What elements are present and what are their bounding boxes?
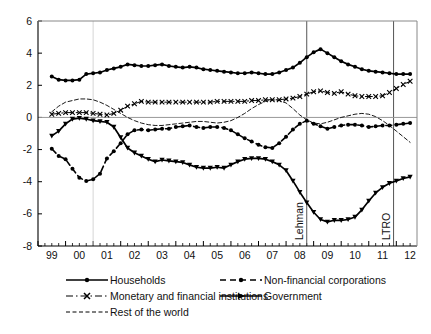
data-point — [332, 55, 336, 59]
data-point — [243, 136, 247, 140]
data-point — [408, 121, 412, 125]
y-tick-label: -2 — [23, 143, 32, 155]
data-point — [270, 146, 274, 150]
data-point — [50, 147, 54, 151]
y-tick-label: 0 — [26, 111, 32, 123]
data-point — [50, 74, 54, 78]
x-tick-label: 02 — [129, 249, 141, 261]
data-point — [408, 72, 412, 76]
data-point — [167, 64, 171, 68]
data-point — [105, 68, 109, 72]
legend-row-2: Monetary and financial institutions Gove… — [0, 288, 431, 304]
data-point — [284, 135, 288, 139]
data-point — [160, 127, 164, 131]
data-point — [167, 127, 171, 131]
legend-symbol-government — [218, 289, 264, 303]
data-point — [353, 123, 357, 127]
data-point — [139, 127, 143, 131]
x-tick-label: 12 — [404, 249, 416, 261]
x-tick-label: 04 — [184, 249, 196, 261]
legend-symbol-non-financial-corporations — [218, 273, 264, 287]
data-point — [263, 72, 267, 76]
annotation-label: LTRO — [380, 213, 392, 240]
x-tick-label: 99 — [46, 249, 58, 261]
legend-item-monetary-and-financial-institutions: Monetary and financial institutions — [0, 288, 218, 304]
data-point — [70, 78, 74, 82]
data-point — [188, 123, 192, 127]
data-point — [339, 123, 343, 127]
data-point — [57, 154, 61, 158]
legend-item-households: Households — [0, 272, 218, 288]
legend-symbol-rest-of-the-world — [64, 305, 110, 319]
plot-background — [0, 0, 431, 270]
data-point — [201, 67, 205, 71]
data-point — [381, 123, 385, 127]
data-point — [387, 71, 391, 75]
data-point — [77, 176, 81, 180]
y-tick-label: -8 — [23, 240, 32, 252]
data-point — [146, 64, 150, 68]
data-point — [139, 64, 143, 68]
data-point — [194, 125, 198, 129]
legend-item-rest-of-the-world: Rest of the world — [0, 304, 218, 320]
data-point — [325, 51, 329, 55]
data-point — [401, 72, 405, 76]
data-point — [181, 124, 185, 128]
x-tick-label: 00 — [74, 249, 86, 261]
data-point — [257, 143, 261, 147]
data-point — [126, 132, 130, 136]
y-tick-label: -6 — [23, 207, 32, 219]
data-point — [250, 140, 254, 144]
data-point — [394, 123, 398, 127]
data-point — [153, 63, 157, 67]
x-tick-label: 01 — [101, 249, 113, 261]
data-point — [64, 78, 68, 82]
x-tick-label: 03 — [156, 249, 168, 261]
data-point — [174, 65, 178, 69]
chart-figure: -8-6-4-20246 990001020304050607080910111… — [0, 0, 431, 334]
data-point — [119, 65, 123, 69]
data-point — [208, 125, 212, 129]
data-point — [98, 70, 102, 74]
data-point — [146, 128, 150, 132]
data-point — [374, 70, 378, 74]
data-point — [77, 78, 81, 82]
data-point — [201, 126, 205, 130]
x-tick-label: 09 — [322, 249, 334, 261]
data-point — [119, 141, 123, 145]
data-point — [319, 124, 323, 128]
data-point — [319, 47, 323, 51]
chart-legend: Households Non-financial corporations Mo… — [0, 272, 431, 334]
data-point — [229, 70, 233, 74]
data-point — [215, 125, 219, 129]
data-point — [236, 71, 240, 75]
data-point — [57, 78, 61, 82]
y-tick-label: 4 — [26, 47, 32, 59]
data-point — [70, 167, 74, 171]
data-point — [394, 72, 398, 76]
data-point — [243, 71, 247, 75]
data-point — [181, 66, 185, 70]
data-point — [126, 62, 130, 66]
data-point — [91, 177, 95, 181]
y-tick-label: 6 — [26, 15, 32, 27]
data-point — [360, 123, 364, 127]
data-point — [194, 66, 198, 70]
legend-label-government: Government — [264, 289, 322, 303]
data-point — [374, 124, 378, 128]
x-tick-label: 06 — [239, 249, 251, 261]
x-tick-label: 10 — [349, 249, 361, 261]
data-point — [132, 63, 136, 67]
legend-item-government: Government — [218, 288, 322, 304]
x-tick-label: 05 — [211, 249, 223, 261]
data-point — [208, 68, 212, 72]
data-point — [367, 125, 371, 129]
x-tick-label: 11 — [377, 249, 388, 261]
legend-label-households: Households — [110, 273, 165, 287]
data-point — [153, 127, 157, 131]
data-point — [188, 65, 192, 69]
data-point — [91, 71, 95, 75]
x-tick-label: 07 — [266, 249, 278, 261]
data-point — [401, 122, 405, 126]
data-point — [346, 123, 350, 127]
